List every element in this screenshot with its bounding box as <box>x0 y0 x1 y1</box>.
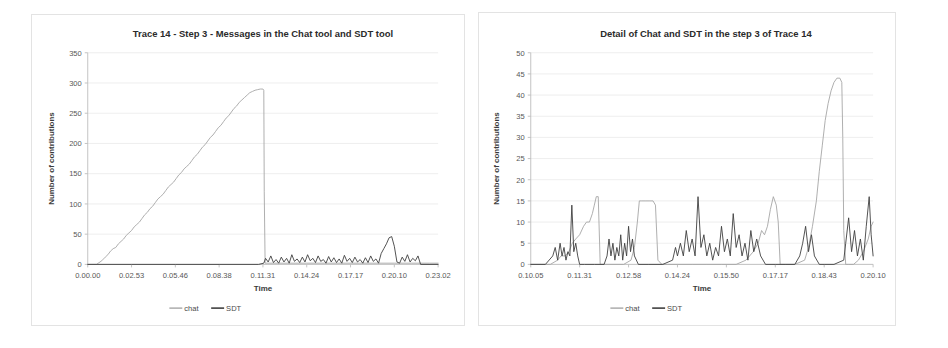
y-tick-label: 350 <box>69 49 82 58</box>
y-tick-label: 100 <box>69 200 82 209</box>
x-tick-label: 0.14.24 <box>294 271 319 280</box>
y-tick-label: 45 <box>516 70 524 79</box>
y-axis-title: Number of contributions <box>492 112 501 205</box>
y-tick-label: 150 <box>69 169 82 178</box>
x-tick-label: 0.18.43 <box>812 271 837 280</box>
series-line-sdt <box>88 237 438 265</box>
chart-panel-left: Trace 14 - Step 3 - Messages in the Chat… <box>31 14 465 326</box>
legend-label-chat: chat <box>625 304 640 313</box>
x-axis-title: Time <box>693 284 712 293</box>
chart-panel-right: Detail of Chat and SDT in the step 3 of … <box>478 12 896 326</box>
x-tick-label: 0.08.38 <box>207 271 232 280</box>
x-tick-label: 0.11.31 <box>567 271 592 280</box>
chart-title: Trace 14 - Step 3 - Messages in the Chat… <box>133 28 393 39</box>
x-axis-title: Time <box>254 284 273 293</box>
x-tick-label: 0.20.10 <box>861 271 886 280</box>
y-tick-label: 10 <box>516 218 524 227</box>
x-tick-label: 0.12.58 <box>616 271 641 280</box>
x-tick-label: 0.00.00 <box>75 271 100 280</box>
series-line-chat <box>88 89 438 264</box>
y-tick-label: 0 <box>521 260 525 269</box>
x-tick-label: 0.15.50 <box>714 271 739 280</box>
chart-left-svg: Trace 14 - Step 3 - Messages in the Chat… <box>32 15 464 325</box>
y-tick-label: 40 <box>516 91 524 100</box>
x-tick-label: 0.10.05 <box>518 271 543 280</box>
y-tick-label: 250 <box>69 109 82 118</box>
y-tick-label: 50 <box>516 49 524 58</box>
y-axis-title: Number of contributions <box>47 112 56 205</box>
chart-left-root: Trace 14 - Step 3 - Messages in the Chat… <box>47 28 451 313</box>
y-tick-label: 20 <box>516 176 524 185</box>
x-tick-label: 0.20.10 <box>382 271 407 280</box>
y-tick-label: 35 <box>516 112 524 121</box>
y-tick-label: 5 <box>521 239 525 248</box>
x-tick-label: 0.05.46 <box>163 271 188 280</box>
y-tick-label: 30 <box>516 133 524 142</box>
legend-label-sdt: SDT <box>226 304 241 313</box>
x-tick-label: 0.14.24 <box>665 271 690 280</box>
y-tick-label: 200 <box>69 139 82 148</box>
y-tick-label: 50 <box>73 230 81 239</box>
series-line-chat <box>531 78 873 264</box>
x-tick-label: 0.02.53 <box>119 271 144 280</box>
chart-right-root: Detail of Chat and SDT in the step 3 of … <box>492 28 886 313</box>
chart-title: Detail of Chat and SDT in the step 3 of … <box>600 28 812 39</box>
y-tick-label: 0 <box>78 260 82 269</box>
x-tick-label: 0.17.17 <box>763 271 788 280</box>
chart-right-svg: Detail of Chat and SDT in the step 3 of … <box>479 13 895 325</box>
legend-label-chat: chat <box>184 304 199 313</box>
legend-label-sdt: SDT <box>667 304 682 313</box>
x-tick-label: 0.17.17 <box>338 271 363 280</box>
y-tick-label: 300 <box>69 79 82 88</box>
x-tick-label: 0.11.31 <box>251 271 276 280</box>
y-tick-label: 15 <box>516 197 524 206</box>
figure-container: Trace 14 - Step 3 - Messages in the Chat… <box>0 0 948 348</box>
x-tick-label: 0.23.02 <box>426 271 451 280</box>
y-tick-label: 25 <box>516 154 524 163</box>
